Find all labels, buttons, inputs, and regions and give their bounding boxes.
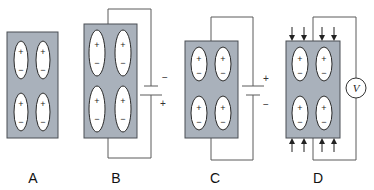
- dipole-cell: + −: [89, 30, 105, 76]
- dipole-cell: + −: [36, 41, 50, 79]
- svg-text:−: −: [94, 114, 99, 124]
- panel-label: C: [210, 170, 220, 186]
- svg-text:−: −: [220, 117, 225, 127]
- polarity-bottom: +: [160, 98, 166, 109]
- panel-d: V + − + − + − + −: [286, 17, 366, 186]
- svg-text:−: −: [18, 117, 23, 127]
- dipole-cell: + −: [14, 41, 28, 79]
- svg-text:+: +: [40, 99, 45, 109]
- svg-text:+: +: [18, 99, 23, 109]
- svg-text:+: +: [220, 103, 225, 113]
- svg-text:+: +: [297, 103, 302, 113]
- panel-a: + − + − + − + − A: [7, 32, 58, 186]
- svg-text:+: +: [297, 54, 302, 64]
- panel-b: − + + − + − + − + − B: [84, 9, 168, 186]
- dipole-cell: + −: [292, 47, 308, 81]
- panel-c: + − + − + − + − + − C: [185, 17, 269, 186]
- svg-text:−: −: [120, 114, 125, 124]
- svg-text:−: −: [321, 68, 326, 78]
- battery-icon: [242, 86, 264, 95]
- dipole-cell: + −: [215, 47, 231, 81]
- svg-text:+: +: [196, 54, 201, 64]
- panel-label: B: [111, 170, 120, 186]
- polarity-top: −: [162, 72, 168, 83]
- svg-text:−: −: [297, 117, 302, 127]
- svg-text:−: −: [196, 117, 201, 127]
- dipole-cell: + −: [316, 47, 332, 81]
- voltmeter-icon: V: [346, 78, 366, 98]
- dipole-cell: + −: [89, 86, 105, 132]
- dipole-cell: + −: [215, 96, 231, 130]
- svg-text:−: −: [220, 68, 225, 78]
- dipole-cell: + −: [115, 86, 131, 132]
- piezo-diagram: + − + − + − + − A − + +: [0, 0, 374, 190]
- svg-text:−: −: [40, 65, 45, 75]
- svg-text:+: +: [120, 96, 125, 106]
- dipole-cell: + −: [316, 96, 332, 130]
- polarity-bottom: −: [263, 99, 269, 110]
- svg-text:−: −: [40, 117, 45, 127]
- svg-text:+: +: [321, 103, 326, 113]
- dipole-cell: + −: [14, 93, 28, 131]
- svg-text:−: −: [321, 117, 326, 127]
- svg-text:+: +: [196, 103, 201, 113]
- svg-text:+: +: [94, 40, 99, 50]
- battery-icon: [140, 86, 162, 95]
- svg-text:+: +: [94, 96, 99, 106]
- polarity-top: +: [263, 73, 269, 84]
- svg-text:+: +: [18, 47, 23, 57]
- panel-label: D: [313, 170, 323, 186]
- svg-text:−: −: [94, 58, 99, 68]
- svg-text:−: −: [18, 65, 23, 75]
- dipole-cell: + −: [191, 96, 207, 130]
- svg-text:+: +: [40, 47, 45, 57]
- svg-text:−: −: [196, 68, 201, 78]
- dipole-cell: + −: [36, 93, 50, 131]
- dipole-cell: + −: [292, 96, 308, 130]
- svg-text:−: −: [297, 68, 302, 78]
- svg-text:−: −: [120, 58, 125, 68]
- dipole-cell: + −: [115, 30, 131, 76]
- svg-text:+: +: [321, 54, 326, 64]
- svg-text:+: +: [120, 40, 125, 50]
- dipole-cell: + −: [191, 47, 207, 81]
- panel-label: A: [28, 170, 38, 186]
- svg-text:+: +: [220, 54, 225, 64]
